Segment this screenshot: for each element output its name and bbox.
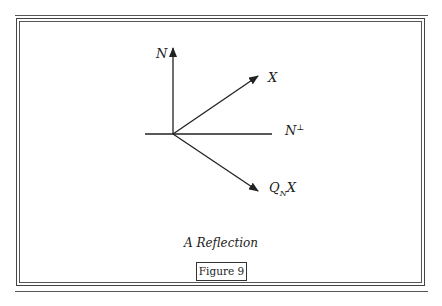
reflection-diagram [0, 0, 442, 306]
x-vector-arrow [173, 76, 258, 134]
hyperplane-label: N⊥ [285, 124, 304, 137]
reflected-vector-arrow [173, 134, 258, 191]
figure-caption: A Reflection [0, 236, 442, 250]
x-vector-label: X [268, 71, 277, 84]
normal-label: N [156, 47, 167, 60]
figure-number-label: Figure 9 [196, 262, 247, 281]
reflection-label: QNX [269, 181, 296, 198]
